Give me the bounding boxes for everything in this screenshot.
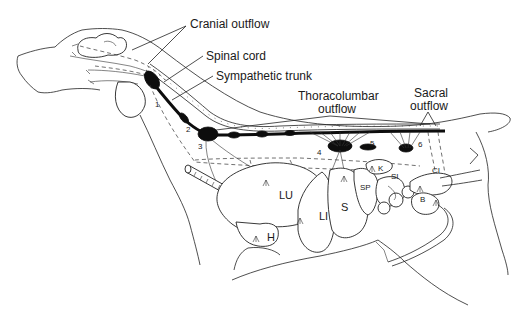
label-heart: H [267, 231, 275, 243]
dog-ans-illustration: Cranial outflow Spinal cord Sympathetic … [0, 0, 520, 325]
ganglion-number-1: 1 [155, 100, 160, 109]
ganglion-number-2: 2 [186, 125, 191, 134]
label-spinal-cord: Spinal cord [206, 49, 266, 63]
label-sympathetic-trunk: Sympathetic trunk [216, 69, 313, 83]
label-thoracolumbar: Thoracolumbar [298, 89, 379, 103]
label-thoracolumbar-outflow: outflow [318, 102, 356, 116]
label-bladder: B [420, 195, 425, 204]
colon [410, 173, 452, 195]
label-lungs: LU [279, 189, 293, 201]
label-sacral: Sacral [414, 86, 448, 100]
ganglion-number-4: 4 [317, 148, 322, 157]
label-colon: CI [432, 166, 440, 175]
larynx [115, 82, 145, 117]
label-stomach: S [341, 201, 348, 213]
ganglion-number-5: 5 [370, 139, 375, 148]
ganglion-number-3: 3 [198, 142, 203, 151]
label-small-intestine: SI [391, 172, 399, 181]
small-intestine [376, 177, 414, 214]
callout-labels: Cranial outflow Spinal cord Sympathetic … [190, 17, 448, 116]
label-liver: LI [319, 210, 328, 222]
label-spleen: SP [360, 183, 371, 192]
label-sacral-outflow: outflow [410, 99, 448, 113]
brain [78, 34, 127, 58]
anatomy-diagram: Cranial outflow Spinal cord Sympathetic … [0, 0, 520, 325]
label-cranial-outflow: Cranial outflow [190, 17, 270, 31]
label-kidney: K [378, 164, 384, 173]
ganglion-number-6: 6 [418, 140, 423, 149]
